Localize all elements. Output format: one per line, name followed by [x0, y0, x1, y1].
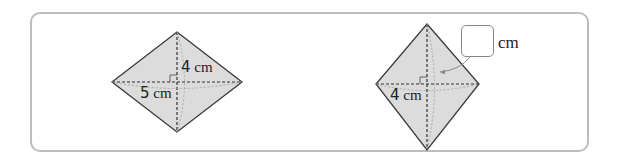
answer-input-box[interactable]	[461, 25, 494, 57]
label-left-horizontal: 5 cm	[140, 86, 172, 101]
figures-canvas	[0, 0, 617, 163]
rhombus-left	[112, 32, 242, 132]
answer-unit-label: cm	[498, 33, 519, 53]
label-left-vertical: 4 cm	[181, 60, 213, 75]
label-right-horizontal: 4 cm	[390, 88, 422, 103]
